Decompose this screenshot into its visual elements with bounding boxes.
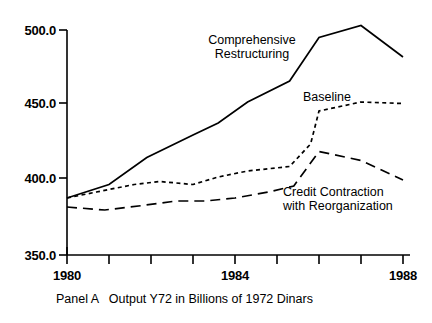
y-tick-label-400: 400.0 [0, 171, 56, 186]
annotation-comprehensive-line2: Restructuring [190, 48, 314, 62]
annotation-baseline: Baseline [303, 91, 351, 105]
x-tick-label-1988: 1988 [376, 268, 430, 283]
y-tick-label-450: 450.0 [0, 96, 56, 111]
chart-figure: 500.0 450.0 400.0 350.0 1980 1984 1988 C… [0, 0, 432, 323]
x-tick-label-1984: 1984 [208, 268, 262, 283]
annotation-credit-line2: with Reorganization [283, 200, 393, 214]
series-line-baseline [67, 102, 403, 198]
x-tick-label-1980: 1980 [40, 268, 94, 283]
annotation-credit-line1: Credit Contraction [283, 186, 393, 200]
y-tick-label-500: 500.0 [0, 23, 56, 38]
annotation-comprehensive-restructuring: Comprehensive Restructuring [190, 34, 314, 61]
figure-caption: Panel A Output Y72 in Billions of 1972 D… [56, 292, 313, 306]
y-axis-ticks [59, 30, 67, 255]
annotation-comprehensive-line1: Comprehensive [190, 34, 314, 48]
annotation-credit-contraction: Credit Contraction with Reorganization [283, 186, 393, 213]
y-tick-label-350: 350.0 [0, 248, 56, 263]
